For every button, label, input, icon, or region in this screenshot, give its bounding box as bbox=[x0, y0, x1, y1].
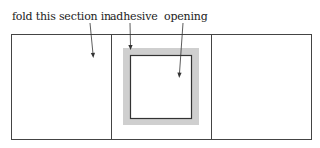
right-panel bbox=[212, 35, 311, 139]
center-panel bbox=[112, 35, 211, 139]
card-fold-diagram: fold this section in adhesive opening bbox=[0, 0, 320, 148]
fold-section-label: fold this section in bbox=[12, 11, 111, 22]
left-panel bbox=[12, 35, 111, 139]
opening-label: opening bbox=[164, 11, 208, 22]
adhesive-label: adhesive bbox=[110, 11, 157, 22]
